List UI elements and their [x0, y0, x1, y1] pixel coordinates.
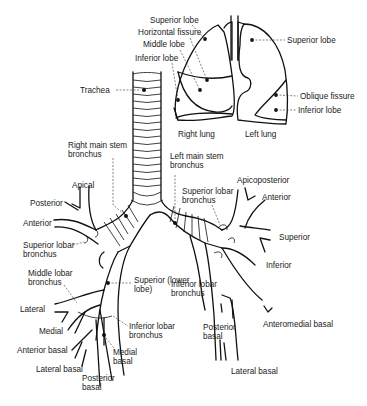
label-apical: Apical	[72, 181, 94, 190]
label-left-anterior: Anterior	[262, 193, 291, 202]
label-superior-lower-lobe-2: lobe)	[134, 285, 152, 294]
label-left-posterior-basal-1: Posterior	[203, 323, 236, 332]
label-right-superior-lobe: Superior lobe	[150, 16, 199, 25]
label-horizontal-fissure: Horizontal fissure	[138, 28, 202, 37]
label-left-superior-lobar-1: Superior lobar	[182, 187, 234, 196]
label-left-inferior: Inferior	[266, 261, 292, 270]
label-right-main-stem-2: bronchus	[68, 150, 102, 159]
label-left-lateral-basal: Lateral basal	[231, 367, 278, 376]
label-left-posterior-basal-2: basal	[203, 332, 223, 341]
label-middle-lobar-2: bronchus	[28, 278, 62, 287]
label-right-posterior-basal-1: Posterior	[82, 374, 115, 383]
right-main-stem-bronchus	[96, 205, 170, 252]
label-left-inferior-lobar-1: Inferior lobar	[171, 280, 217, 289]
label-right-inferior-lobar-2: bronchus	[129, 331, 163, 340]
label-medial: Medial	[39, 327, 63, 336]
trachea-marker	[142, 88, 146, 92]
label-oblique-fissure: Oblique fissure	[300, 92, 355, 101]
label-trachea: Trachea	[80, 86, 110, 95]
label-left-superior: Superior	[279, 233, 310, 242]
label-right-posterior-basal-2: basal	[82, 383, 102, 392]
label-anterior-right: Anterior	[23, 219, 52, 228]
left-main-stem-bronchus	[170, 206, 222, 248]
label-lateral-right: Lateral	[20, 305, 45, 314]
label-left-superior-lobar-2: bronchus	[182, 196, 216, 205]
label-medial-basal-1: Medial	[113, 348, 137, 357]
bronchial-tree-diagram: Superior lobe Horizontal fissure Middle …	[0, 0, 367, 406]
label-right-superior-lobar-2: bronchus	[23, 250, 57, 259]
label-right-main-stem-1: Right main stem	[68, 141, 127, 150]
label-middle-lobe: Middle lobe	[143, 40, 185, 49]
label-right-inferior-lobar-1: Inferior lobar	[129, 322, 175, 331]
label-left-superior-lobe: Superior lobe	[287, 36, 336, 45]
middle-lobe-marker	[198, 88, 202, 92]
label-anteromedial-basal: Anteromedial basal	[263, 320, 333, 329]
label-right-superior-lobar-1: Superior lobar	[23, 241, 75, 250]
left-lung	[237, 22, 287, 124]
label-right-lung: Right lung	[178, 130, 215, 139]
label-posterior: Posterior	[30, 199, 63, 208]
label-right-inferior-lobe: Inferior lobe	[135, 54, 179, 63]
label-left-lung: Left lung	[245, 130, 277, 139]
label-apicoposterior: Apicoposterior	[237, 176, 290, 185]
medial-basal-marker	[102, 333, 106, 337]
left-main-stem-marker	[173, 221, 177, 225]
label-left-main-stem-2: bronchus	[170, 161, 204, 170]
label-right-lateral-basal: Lateral basal	[36, 365, 83, 374]
label-medial-basal-2: basal	[113, 357, 133, 366]
right-main-stem-marker	[124, 214, 128, 218]
label-anterior-basal: Anterior basal	[17, 346, 68, 355]
label-left-inferior-lobe: Inferior lobe	[298, 106, 342, 115]
label-middle-lobar-1: Middle lobar	[28, 269, 73, 278]
label-left-inferior-lobar-2: bronchus	[171, 289, 205, 298]
label-left-main-stem-1: Left main stem	[170, 152, 224, 161]
horizontal-fissure-marker	[205, 78, 209, 82]
